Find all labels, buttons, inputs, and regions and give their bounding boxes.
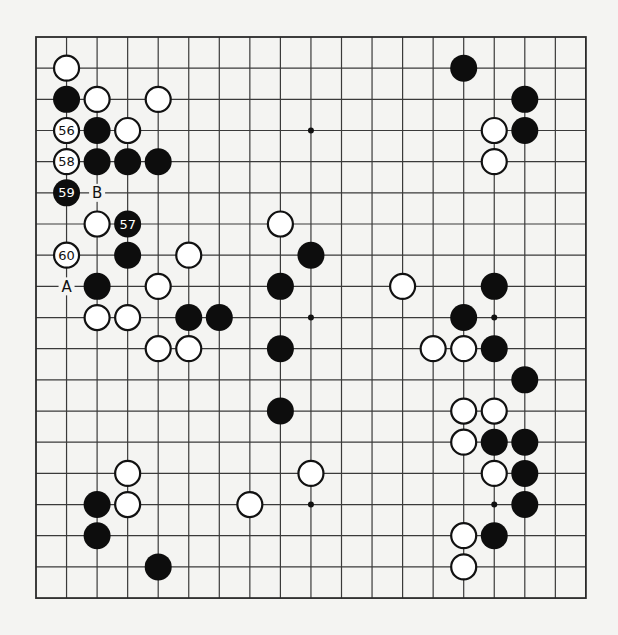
black-stone — [481, 522, 508, 549]
white-stone — [451, 554, 476, 579]
black-stone — [267, 273, 294, 300]
white-stone-icon — [115, 305, 140, 330]
star-point — [491, 502, 497, 508]
black-stone-icon — [145, 553, 172, 580]
black-stone-icon — [84, 522, 111, 549]
star-point — [308, 502, 314, 508]
black-stone — [450, 55, 477, 82]
white-stone-icon — [176, 243, 201, 268]
black-stone — [84, 117, 111, 144]
black-stone-icon — [84, 117, 111, 144]
black-stone-icon — [450, 55, 477, 82]
black-stone — [267, 335, 294, 362]
white-stone — [146, 274, 171, 299]
black-stone-move-59: 59 — [53, 179, 80, 206]
white-stone-icon — [85, 87, 110, 112]
white-stone-icon — [451, 336, 476, 361]
white-stone-icon — [482, 118, 507, 143]
black-stone — [84, 522, 111, 549]
black-stone — [481, 429, 508, 456]
white-stone — [482, 149, 507, 174]
white-stone-move-60: 60 — [54, 243, 79, 268]
white-stone — [482, 118, 507, 143]
go-board-diagram: AB 5658595760 — [0, 0, 618, 635]
star-point — [308, 315, 314, 321]
white-stone — [268, 212, 293, 237]
white-stone — [451, 430, 476, 455]
white-stone-icon — [451, 430, 476, 455]
white-stone-icon — [146, 87, 171, 112]
black-stone-icon — [511, 86, 538, 113]
black-stone-icon — [481, 273, 508, 300]
white-stone-icon — [268, 212, 293, 237]
black-stone — [84, 273, 111, 300]
black-stone — [511, 491, 538, 518]
black-stone — [267, 398, 294, 425]
white-stone — [176, 243, 201, 268]
white-stone — [146, 87, 171, 112]
white-stone — [482, 399, 507, 424]
black-stone-icon — [145, 148, 172, 175]
white-stone — [54, 56, 79, 81]
move-number: 59 — [58, 185, 75, 200]
black-stone — [481, 273, 508, 300]
black-stone-move-57: 57 — [114, 211, 141, 238]
white-stone-icon — [451, 523, 476, 548]
black-stone — [511, 429, 538, 456]
black-stone-icon — [175, 304, 202, 331]
black-stone-icon — [481, 429, 508, 456]
white-stone-icon — [115, 118, 140, 143]
black-stone — [145, 553, 172, 580]
black-stone-icon — [53, 86, 80, 113]
black-stone — [511, 366, 538, 393]
white-stone-icon — [482, 399, 507, 424]
black-stone-icon — [84, 148, 111, 175]
black-stone — [84, 491, 111, 518]
black-stone-icon — [481, 335, 508, 362]
white-stone — [85, 87, 110, 112]
white-stone — [451, 336, 476, 361]
black-stone — [511, 460, 538, 487]
white-stone-icon — [482, 149, 507, 174]
star-point — [308, 128, 314, 134]
white-stone-icon — [421, 336, 446, 361]
black-stone-icon — [84, 491, 111, 518]
white-stone-icon — [115, 492, 140, 517]
black-stone — [53, 86, 80, 113]
white-stone-icon — [298, 461, 323, 486]
black-stone-icon — [481, 522, 508, 549]
white-stone-icon — [237, 492, 262, 517]
black-stone — [511, 117, 538, 144]
white-stone — [237, 492, 262, 517]
black-stone — [206, 304, 233, 331]
white-stone-move-56: 56 — [54, 118, 79, 143]
white-stone — [115, 118, 140, 143]
black-stone — [114, 242, 141, 269]
black-stone-icon — [267, 398, 294, 425]
white-stone-icon — [146, 336, 171, 361]
white-stone-move-58: 58 — [54, 149, 79, 174]
white-stone — [85, 212, 110, 237]
white-stone-icon — [115, 461, 140, 486]
black-stone-icon — [511, 366, 538, 393]
move-number: 57 — [119, 217, 136, 232]
black-stone — [450, 304, 477, 331]
black-stone — [175, 304, 202, 331]
move-number: 58 — [58, 154, 75, 169]
white-stone — [298, 461, 323, 486]
black-stone-icon — [450, 304, 477, 331]
white-stone — [146, 336, 171, 361]
black-stone-icon — [511, 460, 538, 487]
white-stone-icon — [390, 274, 415, 299]
white-stone — [421, 336, 446, 361]
star-point — [491, 315, 497, 321]
black-stone — [511, 86, 538, 113]
white-stone-icon — [451, 554, 476, 579]
black-stone-icon — [511, 117, 538, 144]
white-stone — [451, 523, 476, 548]
black-stone-icon — [114, 242, 141, 269]
black-stone — [297, 242, 324, 269]
black-stone — [481, 335, 508, 362]
white-stone — [115, 305, 140, 330]
white-stone — [85, 305, 110, 330]
